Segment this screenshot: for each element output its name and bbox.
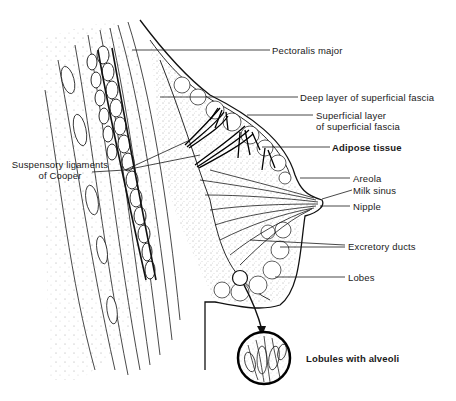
label-adipose-tissue: Adipose tissue (332, 142, 402, 153)
label-superficial-layer-line1: Superficial layer (316, 110, 386, 121)
label-areola: Areola (353, 173, 381, 184)
label-suspensory-ligaments-line1: Suspensory ligaments (5, 159, 115, 170)
label-nipple: Nipple (353, 201, 381, 212)
lobe-magnifier-source (233, 271, 248, 286)
label-lobules-with-alveoli: Lobules with alveoli (306, 353, 399, 364)
label-milk-sinus: Milk sinus (353, 185, 396, 196)
label-deep-layer-fascia: Deep layer of superficial fascia (300, 92, 434, 103)
label-suspensory-ligaments-line2: of Cooper (5, 170, 115, 181)
label-lobes: Lobes (348, 272, 375, 283)
breast-anatomy-illustration (0, 0, 456, 401)
label-pectoralis-major: Pectoralis major (272, 45, 343, 56)
lobules-inset (238, 332, 290, 384)
breast-tissue-stipple (150, 40, 318, 304)
label-superficial-layer-line2: of superficial fascia (316, 121, 400, 132)
label-excretory-ducts: Excretory ducts (348, 241, 416, 252)
